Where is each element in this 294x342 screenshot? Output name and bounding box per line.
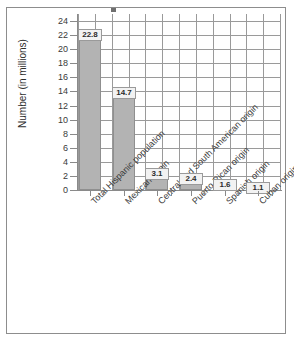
y-axis-tick-labels: 024681012141618202224 bbox=[42, 0, 68, 342]
y-axis-tick-label: 4 bbox=[44, 158, 68, 167]
bar-value-label: 22.8 bbox=[78, 29, 102, 41]
bar-value-label: 2.4 bbox=[179, 173, 203, 185]
x-axis-tick bbox=[191, 191, 192, 196]
gridline-vertical bbox=[179, 14, 180, 190]
y-axis-tick bbox=[70, 120, 77, 121]
y-axis-tick-label: 14 bbox=[44, 87, 68, 96]
y-axis-tick-label: 16 bbox=[44, 73, 68, 82]
y-axis-tick-label: 2 bbox=[44, 172, 68, 181]
y-axis-tick bbox=[70, 176, 77, 177]
y-axis-tick-label: 20 bbox=[44, 45, 68, 54]
x-axis-tick bbox=[124, 191, 125, 196]
y-axis-tick-label: 0 bbox=[44, 186, 68, 195]
y-axis-tick-label: 22 bbox=[44, 31, 68, 40]
y-axis-title: Number (in millions) bbox=[17, 24, 28, 144]
x-axis-tick bbox=[258, 191, 259, 196]
x-axis-tick-minor bbox=[204, 191, 205, 196]
x-axis-tick bbox=[90, 191, 91, 196]
y-axis-tick bbox=[70, 162, 77, 163]
bar-value-label: 3.1 bbox=[145, 168, 169, 180]
x-axis-tick-minor bbox=[171, 191, 172, 196]
y-axis-tick bbox=[70, 148, 77, 149]
gridline-vertical bbox=[145, 14, 146, 190]
x-axis-tick bbox=[225, 191, 226, 196]
y-axis-tick bbox=[70, 91, 77, 92]
x-axis-tick-minor bbox=[272, 191, 273, 196]
y-axis-tick-label: 8 bbox=[44, 130, 68, 139]
y-axis-tick-label: 12 bbox=[44, 102, 68, 111]
y-axis-tick-label: 18 bbox=[44, 59, 68, 68]
gridline-vertical bbox=[213, 14, 214, 190]
x-axis-tick-minor bbox=[137, 191, 138, 196]
y-axis-tick-label: 24 bbox=[44, 17, 68, 26]
x-axis-tick-minor bbox=[238, 191, 239, 196]
y-axis-tick bbox=[70, 63, 77, 64]
y-axis-tick bbox=[70, 35, 77, 36]
y-axis-tick bbox=[70, 190, 77, 191]
y-axis-tick bbox=[70, 77, 77, 78]
y-axis-tick bbox=[70, 134, 77, 135]
y-axis-tick bbox=[70, 21, 77, 22]
plot-area bbox=[78, 14, 280, 190]
y-axis-tick-label: 6 bbox=[44, 144, 68, 153]
bar-value-label: 14.7 bbox=[112, 87, 136, 99]
x-axis-tick bbox=[157, 191, 158, 196]
bar bbox=[79, 29, 101, 190]
y-axis-tick bbox=[70, 49, 77, 50]
gridline-vertical bbox=[246, 14, 247, 190]
x-axis-tick-minor bbox=[103, 191, 104, 196]
gridline-vertical bbox=[280, 14, 281, 190]
y-axis-tick-label: 10 bbox=[44, 116, 68, 125]
y-axis-tick bbox=[70, 106, 77, 107]
top-edge-artifact bbox=[111, 8, 116, 12]
